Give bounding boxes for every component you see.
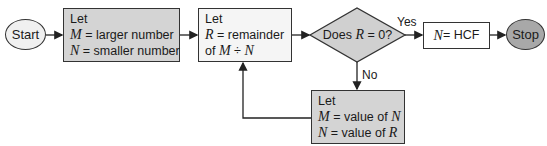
assign-mn-line-n: N = smaller number — [70, 43, 173, 59]
hcf-flowchart: Start Let M = larger number N = smaller … — [0, 0, 547, 146]
result-process: N = HCF — [423, 22, 490, 49]
swap-line-m: M = value of N — [318, 109, 398, 125]
remainder-let: Let — [205, 12, 285, 27]
swap-process: Let M = value of N N = value of R — [311, 90, 405, 144]
stop-label: Stop — [512, 27, 539, 42]
start-label: Start — [12, 27, 39, 42]
assign-mn-let: Let — [70, 12, 173, 27]
remainder-line-division: of M ÷ N — [205, 43, 285, 59]
swap-let: Let — [318, 94, 398, 109]
assign-mn-line-m: M = larger number — [70, 27, 173, 43]
stop-terminal: Stop — [506, 19, 545, 50]
no-label: No — [362, 68, 377, 82]
decision-text: Does R = 0? — [310, 27, 405, 43]
swap-line-n: N = value of R — [318, 125, 398, 141]
start-terminal: Start — [5, 19, 46, 50]
assign-mn-process: Let M = larger number N = smaller number — [63, 8, 180, 62]
remainder-line-r: R = remainder — [205, 27, 285, 43]
remainder-process: Let R = remainder of M ÷ N — [198, 8, 292, 62]
yes-label: Yes — [397, 15, 417, 29]
